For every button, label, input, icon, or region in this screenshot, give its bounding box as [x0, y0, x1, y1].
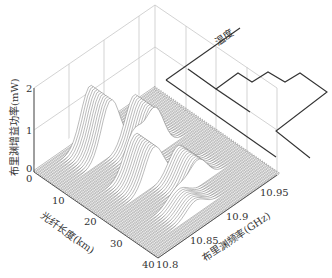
x-tick-10: 10	[52, 195, 65, 206]
waterfall-3d-chart: 温度 2 1 0 0 10 20 30 40 10.8 10.85 10.9 1…	[0, 0, 332, 278]
y-tick-10.8: 10.8	[156, 259, 178, 270]
y-tick-10.95: 10.95	[260, 187, 289, 198]
x-tick-20: 20	[84, 216, 97, 227]
z-tick-2: 2	[26, 83, 32, 94]
temperature-label: 温度	[212, 27, 235, 48]
y-tick-10.9: 10.9	[226, 211, 248, 222]
x-tick-40: 40	[142, 259, 155, 270]
x-tick-30: 30	[110, 238, 123, 249]
z-tick-1: 1	[26, 125, 32, 136]
x-tick-0: 0	[26, 173, 32, 184]
z-axis-title: 布里渊增益功率(mW)	[8, 78, 20, 176]
